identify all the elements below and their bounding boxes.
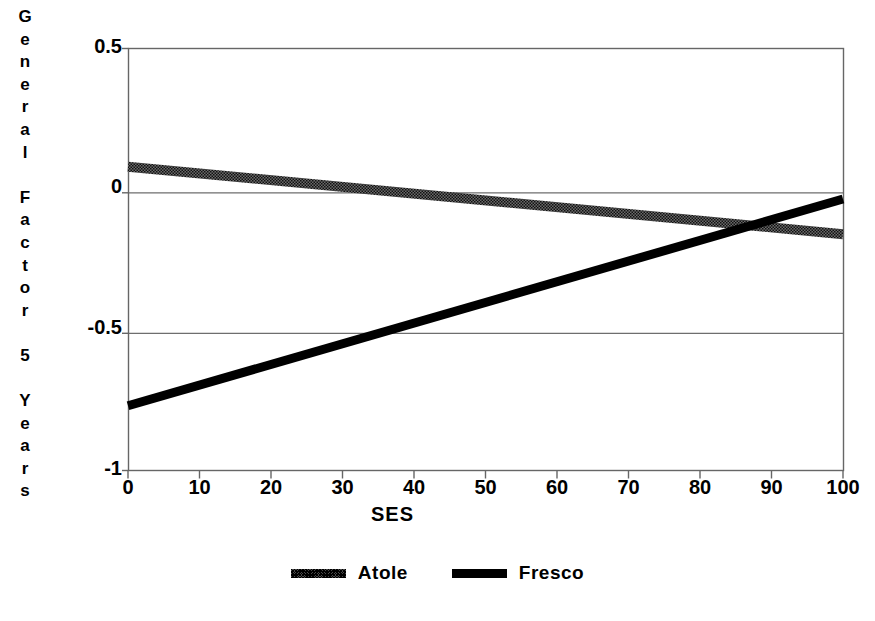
x-tick-label: 40 xyxy=(384,476,444,499)
x-tick-label: 90 xyxy=(742,476,802,499)
x-tick-label: 20 xyxy=(241,476,301,499)
x-tick-label: 100 xyxy=(813,476,873,499)
x-axis-tick-labels: 0102030405060708090100 xyxy=(0,0,875,621)
x-axis-title-text: SES xyxy=(371,503,414,526)
x-tick-label: 70 xyxy=(599,476,659,499)
x-tick-label: 0 xyxy=(98,476,158,499)
chart-legend: Atole Fresco xyxy=(0,562,875,584)
legend-label-atole: Atole xyxy=(358,562,408,584)
hatched-line-swatch-icon xyxy=(291,568,346,579)
legend-entry-fresco[interactable]: Fresco xyxy=(452,562,584,584)
x-tick-label: 80 xyxy=(670,476,730,499)
solid-line-swatch-icon xyxy=(452,569,507,578)
x-tick-label: 10 xyxy=(170,476,230,499)
x-axis-title: SES xyxy=(0,503,875,526)
x-tick-label: 60 xyxy=(527,476,587,499)
x-tick-label: 30 xyxy=(313,476,373,499)
legend-label-fresco: Fresco xyxy=(519,562,584,584)
x-tick-label: 50 xyxy=(456,476,516,499)
legend-entry-atole[interactable]: Atole xyxy=(291,562,408,584)
chart-figure: General Factor 5 Years 0.50-0.5-1 xyxy=(0,0,875,621)
